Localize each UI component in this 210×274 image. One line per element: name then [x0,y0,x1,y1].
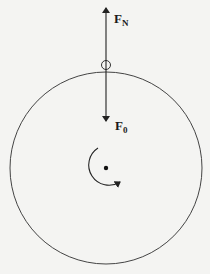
applied-force-label: F0 [115,118,128,135]
normal-force-label: FN [114,11,129,28]
force-diagram: FN F0 [0,0,210,274]
center-dot [104,166,108,170]
